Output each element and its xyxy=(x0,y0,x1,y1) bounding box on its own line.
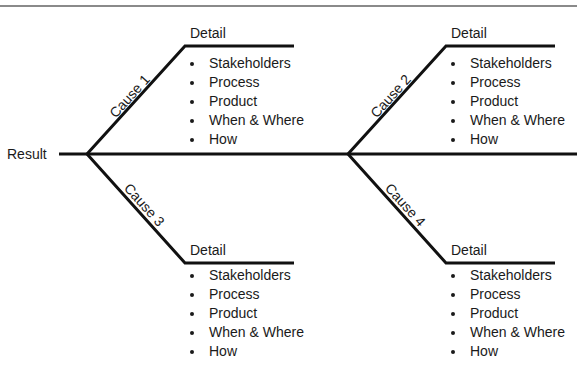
cause-1-detail-list: Stakeholders Process Product When & Wher… xyxy=(190,54,304,149)
list-item: When & Where xyxy=(451,323,565,342)
list-item: When & Where xyxy=(451,111,565,130)
list-item: Stakeholders xyxy=(451,266,565,285)
list-item: How xyxy=(190,130,304,149)
cause-3-detail-list: Stakeholders Process Product When & Wher… xyxy=(190,266,304,361)
list-item: Stakeholders xyxy=(451,54,565,73)
list-item: Product xyxy=(451,92,565,111)
list-item: How xyxy=(451,130,565,149)
list-item: Process xyxy=(451,73,565,92)
list-item: When & Where xyxy=(190,111,304,130)
cause-1-detail-title: Detail xyxy=(190,25,226,41)
cause-3-detail-title: Detail xyxy=(190,242,226,258)
cause-4-detail-list: Stakeholders Process Product When & Wher… xyxy=(451,266,565,361)
list-item: Stakeholders xyxy=(190,266,304,285)
list-item: Product xyxy=(190,92,304,111)
cause-2-detail-title: Detail xyxy=(451,25,487,41)
result-label: Result xyxy=(7,146,47,162)
list-item: Product xyxy=(190,304,304,323)
list-item: Process xyxy=(190,285,304,304)
list-item: How xyxy=(190,342,304,361)
list-item: How xyxy=(451,342,565,361)
cause-2-detail-list: Stakeholders Process Product When & Wher… xyxy=(451,54,565,149)
list-item: Stakeholders xyxy=(190,54,304,73)
list-item: When & Where xyxy=(190,323,304,342)
cause-4-detail-title: Detail xyxy=(451,242,487,258)
list-item: Product xyxy=(451,304,565,323)
list-item: Process xyxy=(451,285,565,304)
list-item: Process xyxy=(190,73,304,92)
